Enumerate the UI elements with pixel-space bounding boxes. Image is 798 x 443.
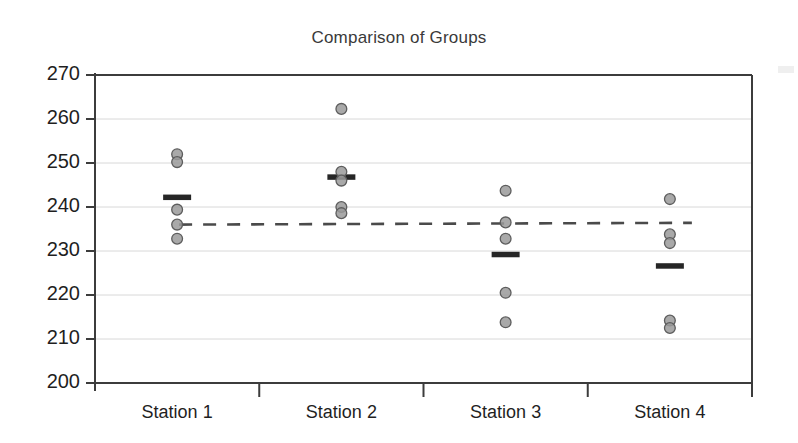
x-tick-label-1: Station 1 — [95, 402, 259, 423]
y-tick-label: 200 — [14, 371, 80, 391]
x-tick-marks — [259, 383, 752, 397]
data-point — [336, 208, 347, 219]
chart-container: Comparison of Groups 2002102202302402502… — [0, 0, 798, 443]
data-point — [172, 204, 183, 215]
x-tick-label-4: Station 4 — [588, 402, 752, 423]
plot-area — [0, 0, 798, 443]
data-point — [500, 185, 511, 196]
x-tick-label-2: Station 2 — [259, 402, 423, 423]
y-tick-label: 270 — [14, 63, 80, 83]
y-tick-label: 210 — [14, 327, 80, 347]
data-point — [336, 175, 347, 186]
y-tick-marks — [86, 75, 95, 383]
y-tick-label: 220 — [14, 283, 80, 303]
data-point — [172, 219, 183, 230]
reference-line-dashed — [179, 223, 692, 225]
axis-frame — [95, 73, 752, 391]
y-tick-label: 240 — [14, 195, 80, 215]
data-point — [500, 287, 511, 298]
reference-line — [179, 223, 692, 225]
group-mean-markers — [163, 177, 684, 266]
data-point — [500, 217, 511, 228]
y-tick-label: 250 — [14, 151, 80, 171]
gridlines-group — [95, 119, 752, 339]
y-tick-label: 230 — [14, 239, 80, 259]
data-point — [336, 103, 347, 114]
y-tick-label: 260 — [14, 107, 80, 127]
data-point — [172, 157, 183, 168]
x-tick-label-3: Station 3 — [424, 402, 588, 423]
data-point — [664, 238, 675, 249]
data-point — [172, 233, 183, 244]
data-points-group — [172, 103, 676, 333]
data-point — [500, 317, 511, 328]
data-point — [664, 194, 675, 205]
data-point — [500, 233, 511, 244]
data-point — [664, 323, 675, 334]
